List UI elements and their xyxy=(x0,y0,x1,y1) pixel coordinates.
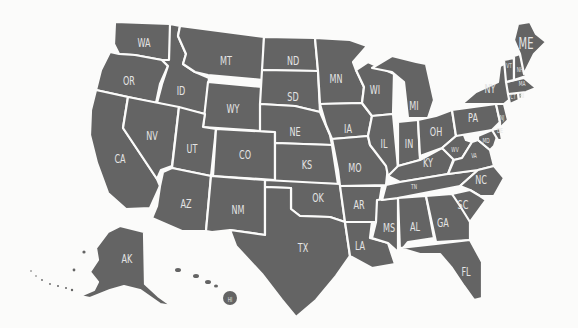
state-wy[interactable] xyxy=(203,82,262,131)
state-vt[interactable] xyxy=(504,58,514,82)
state-nm[interactable] xyxy=(206,176,265,235)
state-hi[interactable] xyxy=(175,268,237,305)
us-map: WAORCAIDNVMTWYUTCOAZNMNDSDNEKSOKTXMNIAMO… xyxy=(0,0,578,328)
alaska-islands xyxy=(30,250,85,291)
state-ks[interactable] xyxy=(275,143,338,184)
state-az[interactable] xyxy=(152,168,211,231)
state-co[interactable] xyxy=(213,129,275,180)
state-nd[interactable] xyxy=(262,37,318,71)
state-fl[interactable] xyxy=(400,240,482,300)
state-ak[interactable] xyxy=(80,226,172,306)
us-map-shapes xyxy=(0,0,578,328)
state-in[interactable] xyxy=(398,120,420,166)
